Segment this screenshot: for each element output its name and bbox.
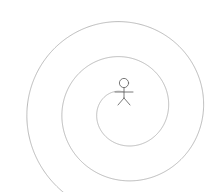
canvas-background	[0, 0, 217, 192]
spiral-sketch-svg	[0, 0, 217, 192]
drawing-canvas	[0, 0, 217, 192]
